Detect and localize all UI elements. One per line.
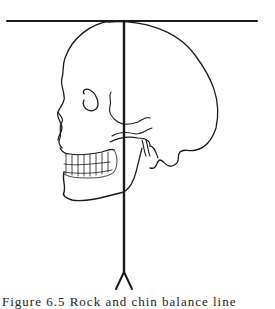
cheek-line — [109, 92, 150, 124]
figure-caption: Figure 6.5 Rock and chin balance line — [2, 295, 273, 309]
frontal-outline — [58, 21, 110, 140]
zygomatic-arch — [112, 128, 152, 136]
mandible-ramus — [124, 148, 142, 192]
zygomatic-arch-lower — [110, 137, 150, 146]
mandible-outline — [63, 172, 124, 201]
maxilla-outline — [60, 148, 114, 155]
ear-region — [142, 140, 158, 158]
eye-socket — [83, 89, 98, 111]
plumb-line-fork — [116, 272, 132, 289]
